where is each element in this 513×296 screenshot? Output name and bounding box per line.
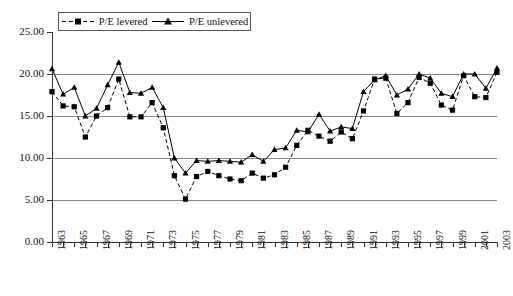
data-point — [450, 108, 455, 113]
data-point — [472, 94, 477, 99]
x-tick-label-1971: 1971 — [145, 230, 156, 250]
data-point — [328, 139, 333, 144]
data-point — [116, 59, 122, 65]
data-point — [94, 113, 99, 118]
data-point — [316, 134, 321, 139]
data-point — [494, 65, 500, 71]
y-tick-label-25: 25.00 — [2, 25, 44, 37]
data-point — [338, 124, 344, 130]
x-tick-label-2003: 2003 — [501, 230, 512, 250]
x-tick-label-1969: 1969 — [123, 230, 134, 250]
data-point — [227, 176, 232, 181]
data-point — [261, 176, 266, 181]
data-point — [172, 173, 177, 178]
data-point — [372, 76, 377, 81]
legend-swatch-dashed-square — [61, 16, 95, 27]
data-point — [127, 114, 132, 119]
data-point — [394, 92, 400, 98]
y-tick-label-20: 20.00 — [2, 67, 44, 79]
data-point — [294, 127, 300, 132]
legend-label-pe-unlevered: P/E unlevered — [188, 16, 248, 27]
pe-ratio-line-chart: 25.00 20.00 15.00 10.00 5.00 0.00 196319… — [0, 0, 513, 296]
x-tick-label-1979: 1979 — [234, 230, 245, 250]
x-tick-label-1997: 1997 — [434, 230, 445, 250]
data-point — [60, 91, 66, 97]
data-point — [339, 129, 344, 134]
data-point — [283, 145, 289, 151]
legend-label-pe-levered: P/E levered — [98, 16, 148, 27]
data-point — [205, 169, 210, 174]
x-tick-label-2001: 2001 — [479, 230, 490, 250]
data-point — [305, 128, 310, 133]
chart-legend: P/E levered P/E unlevered — [58, 12, 251, 31]
data-point — [72, 104, 77, 109]
data-point — [439, 102, 444, 107]
legend-swatch-solid-triangle — [151, 16, 185, 27]
x-tick-label-1977: 1977 — [212, 230, 223, 250]
data-point — [71, 84, 77, 90]
x-tick-label-1985: 1985 — [301, 230, 312, 250]
data-point — [105, 82, 111, 88]
data-point — [216, 173, 221, 178]
x-tick-label-1989: 1989 — [345, 230, 356, 250]
data-point — [483, 95, 488, 100]
x-tick-label-1991: 1991 — [368, 230, 379, 250]
x-tick-label-1987: 1987 — [323, 230, 334, 250]
x-tick-label-1965: 1965 — [78, 230, 89, 250]
data-point — [183, 197, 188, 202]
data-point — [361, 108, 366, 113]
x-tick-label-1995: 1995 — [412, 230, 423, 250]
x-tick-label-1967: 1967 — [101, 230, 112, 250]
data-point — [405, 100, 410, 105]
x-tick-label-1983: 1983 — [279, 230, 290, 250]
x-tick-label-1981: 1981 — [256, 230, 267, 250]
x-tick-marks — [53, 242, 498, 247]
data-point — [417, 75, 422, 80]
data-point — [160, 105, 166, 111]
data-point — [249, 152, 255, 158]
data-point — [283, 165, 288, 170]
data-point — [316, 111, 322, 117]
data-point — [383, 76, 388, 81]
legend-item-pe-levered: P/E levered — [61, 16, 148, 27]
data-point — [138, 114, 143, 119]
data-point — [161, 125, 166, 130]
data-point — [239, 178, 244, 183]
x-tick-label-1963: 1963 — [56, 230, 67, 250]
data-point — [350, 136, 355, 141]
y-tick-label-15: 15.00 — [2, 109, 44, 121]
series-pe-levered — [49, 70, 499, 202]
data-point — [150, 100, 155, 105]
x-tick-label-1993: 1993 — [390, 230, 401, 250]
data-point — [294, 143, 299, 148]
data-point — [93, 105, 99, 111]
data-point — [428, 81, 433, 86]
y-tick-label-5: 5.00 — [2, 193, 44, 205]
data-point — [194, 174, 199, 179]
data-point — [494, 70, 499, 75]
data-point — [61, 103, 66, 108]
x-tick-label-1973: 1973 — [167, 230, 178, 250]
data-point — [127, 89, 133, 95]
data-point — [105, 105, 110, 110]
y-tick-label-0: 0.00 — [2, 235, 44, 247]
data-point — [83, 134, 88, 139]
y-tick-marks — [47, 32, 52, 242]
y-tick-label-10: 10.00 — [2, 151, 44, 163]
x-tick-label-1999: 1999 — [457, 230, 468, 250]
x-tick-label-1975: 1975 — [190, 230, 201, 250]
data-point — [116, 76, 121, 81]
chart-canvas — [0, 0, 513, 296]
data-point — [272, 172, 277, 177]
data-point — [49, 89, 54, 94]
data-point — [394, 111, 399, 116]
data-point — [461, 73, 466, 78]
line-path — [52, 72, 497, 199]
data-point — [49, 66, 55, 72]
data-point — [149, 84, 155, 90]
data-point — [250, 171, 255, 176]
legend-item-pe-unlevered: P/E unlevered — [151, 16, 248, 27]
